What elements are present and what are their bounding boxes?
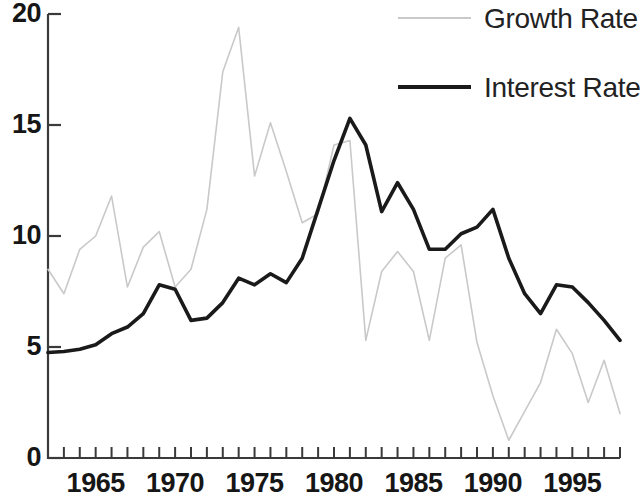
x-tick-label-1995: 1995 bbox=[538, 470, 606, 497]
y-tick-label-15: 15 bbox=[12, 111, 41, 138]
x-tick-label-1965: 1965 bbox=[62, 470, 130, 497]
legend-item-interest-rate-label: Interest Rate bbox=[484, 74, 640, 102]
x-tick-label-1980: 1980 bbox=[300, 470, 368, 497]
series-line-interest-rate bbox=[48, 118, 620, 352]
legend-item-growth-rate-label: Growth Rate bbox=[484, 5, 638, 33]
y-tick-label-10: 10 bbox=[12, 222, 41, 249]
x-tick-label-1990: 1990 bbox=[459, 470, 527, 497]
y-tick-label-0: 0 bbox=[26, 444, 41, 471]
legend-swatch-group bbox=[398, 18, 471, 87]
y-tick-label-20: 20 bbox=[12, 0, 41, 27]
x-tick-label-1975: 1975 bbox=[221, 470, 289, 497]
x-tick-label-1985: 1985 bbox=[379, 470, 447, 497]
x-tick-label-1970: 1970 bbox=[141, 470, 209, 497]
y-tick-label-5: 5 bbox=[26, 333, 41, 360]
